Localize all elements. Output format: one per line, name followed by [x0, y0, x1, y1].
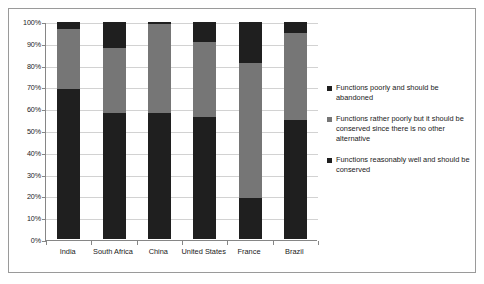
- plot-wrapper: IndiaSouth AfricaChinaUnited StatesFranc…: [45, 23, 317, 241]
- legend-item[interactable]: Functions poorly and should be abandoned: [327, 83, 477, 103]
- bar-group: [239, 22, 262, 239]
- bar-group: [57, 22, 80, 239]
- y-axis-labels: 100%90%80%70%60%50%40%30%20%10%0%: [9, 23, 41, 241]
- x-axis-tick-mark: [227, 241, 228, 245]
- y-axis-tick-mark: [42, 197, 46, 198]
- bar-segment: [103, 22, 126, 48]
- gridline: [46, 176, 318, 177]
- y-axis-tick-label: 60%: [27, 106, 41, 114]
- y-axis-tick-label: 20%: [27, 193, 41, 201]
- gridline: [46, 154, 318, 155]
- bar-group: [284, 22, 307, 239]
- stacked-bar[interactable]: [148, 22, 171, 239]
- bar-segment: [193, 117, 216, 239]
- x-axis-tick-mark: [137, 241, 138, 245]
- gridline: [46, 132, 318, 133]
- stacked-bar[interactable]: [284, 22, 307, 239]
- chart-frame: 100%90%80%70%60%50%40%30%20%10%0% IndiaS…: [8, 8, 476, 273]
- gridline: [46, 110, 318, 111]
- y-axis-tick-label: 50%: [27, 128, 41, 136]
- y-axis-tick-label: 100%: [23, 19, 41, 27]
- x-axis-tick-mark: [182, 241, 183, 245]
- legend-swatch-icon: [327, 86, 332, 91]
- bar-segment: [284, 33, 307, 120]
- bar-segment: [148, 24, 171, 113]
- y-axis-tick-label: 40%: [27, 150, 41, 158]
- y-axis-tick-label: 10%: [27, 215, 41, 223]
- plot-area: [45, 23, 317, 241]
- stacked-bar[interactable]: [57, 22, 80, 239]
- legend-item-label: Functions poorly and should be abandoned: [336, 83, 477, 103]
- y-axis-tick-mark: [42, 45, 46, 46]
- y-axis-tick-mark: [42, 132, 46, 133]
- gridline: [46, 197, 318, 198]
- legend-swatch-icon: [327, 158, 332, 163]
- y-axis-tick-mark: [42, 88, 46, 89]
- y-axis-tick-label: 70%: [27, 84, 41, 92]
- chart-figure: 100%90%80%70%60%50%40%30%20%10%0% IndiaS…: [0, 0, 484, 284]
- legend-item-label: Functions rather poorly but it should be…: [336, 114, 477, 144]
- y-axis-tick-label: 80%: [27, 63, 41, 71]
- y-axis-tick-label: 0%: [31, 237, 41, 245]
- bar-segment: [239, 22, 262, 63]
- x-axis-tick-mark: [318, 241, 319, 245]
- gridline: [46, 219, 318, 220]
- y-axis-tick-mark: [42, 154, 46, 155]
- stacked-bar[interactable]: [103, 22, 126, 239]
- stacked-bar[interactable]: [193, 22, 216, 239]
- x-axis-category-label: United States: [181, 247, 226, 257]
- chart-legend: Functions poorly and should be abandoned…: [327, 83, 477, 186]
- bar-segment: [57, 89, 80, 239]
- y-axis-tick-label: 30%: [27, 172, 41, 180]
- y-axis-tick-mark: [42, 67, 46, 68]
- legend-item-label: Functions reasonably well and should be …: [336, 155, 477, 175]
- x-axis-tick-mark: [91, 241, 92, 245]
- gridline: [46, 67, 318, 68]
- x-axis-tick-mark: [46, 241, 47, 245]
- bar-segment: [193, 42, 216, 118]
- y-axis-tick-mark: [42, 110, 46, 111]
- bar-segment: [239, 63, 262, 198]
- bar-group: [193, 22, 216, 239]
- stacked-bar[interactable]: [239, 22, 262, 239]
- x-axis-category-label: France: [226, 247, 271, 257]
- bar-segment: [103, 48, 126, 113]
- gridline: [46, 88, 318, 89]
- gridline: [46, 45, 318, 46]
- bar-group: [148, 22, 171, 239]
- legend-item[interactable]: Functions rather poorly but it should be…: [327, 114, 477, 144]
- bar-group: [103, 22, 126, 239]
- x-axis-category-label: South Africa: [90, 247, 135, 257]
- gridline: [46, 23, 318, 24]
- y-axis-tick-label: 90%: [27, 41, 41, 49]
- y-axis-tick-mark: [42, 23, 46, 24]
- bar-segment: [239, 198, 262, 239]
- x-axis-category-label: India: [45, 247, 90, 257]
- x-axis-tick-mark: [273, 241, 274, 245]
- bar-segment: [103, 113, 126, 239]
- bar-segment: [57, 29, 80, 90]
- legend-swatch-icon: [327, 117, 332, 122]
- bar-segment: [193, 22, 216, 42]
- legend-item[interactable]: Functions reasonably well and should be …: [327, 155, 477, 175]
- bar-segment: [284, 120, 307, 239]
- x-axis-category-label: Brazil: [272, 247, 317, 257]
- y-axis-tick-mark: [42, 219, 46, 220]
- bar-segment: [284, 22, 307, 33]
- x-axis-category-label: China: [136, 247, 181, 257]
- bar-segment: [148, 113, 171, 239]
- y-axis-tick-mark: [42, 176, 46, 177]
